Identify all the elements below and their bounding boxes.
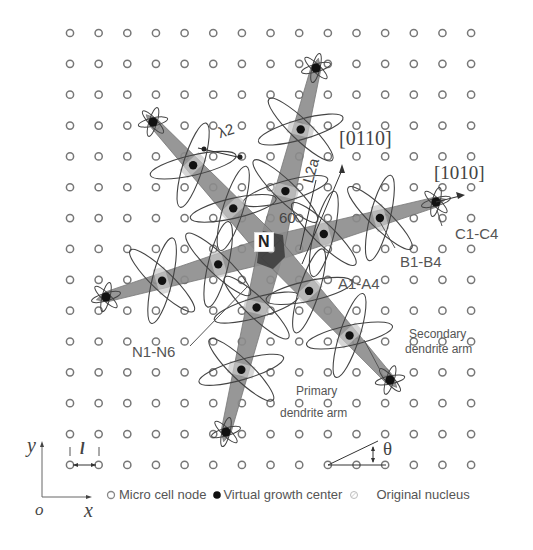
micro-cell-node: [95, 153, 102, 160]
micro-cell-node: [66, 29, 73, 36]
virtual-growth-center: [222, 428, 231, 437]
micro-cell-node: [382, 400, 389, 407]
virtual-growth-center: [386, 376, 395, 385]
primary-arm-label-line1: Primary: [296, 385, 337, 398]
micro-cell-node: [439, 276, 446, 283]
micro-cell-node: [181, 245, 188, 252]
micro-cell-node: [267, 153, 274, 160]
micro-cell-node: [181, 184, 188, 191]
y-axis-label: y: [27, 434, 36, 457]
micro-cell-node: [66, 153, 73, 160]
micro-cell-node: [124, 60, 131, 67]
arrow-head-icon: [40, 441, 44, 447]
micro-cell-node: [382, 29, 389, 36]
micro-cell-node: [181, 215, 188, 222]
micro-cell-node: [238, 430, 245, 437]
micro-cell-node: [210, 153, 217, 160]
micro-cell-node: [152, 461, 159, 468]
micro-cell-node: [181, 461, 188, 468]
micro-cell-node: [382, 60, 389, 67]
micro-cell-node: [95, 184, 102, 191]
micro-cell-node: [353, 60, 360, 67]
micro-cell-node: [124, 153, 131, 160]
micro-cell-node: [66, 184, 73, 191]
lambda2-endpoint-icon: [238, 155, 243, 160]
micro-cell-node: [152, 91, 159, 98]
micro-cell-node: [324, 184, 331, 191]
micro-cell-node: [324, 369, 331, 376]
micro-cell-node: [152, 29, 159, 36]
micro-cell-node: [324, 338, 331, 345]
micro-cell-node: [439, 430, 446, 437]
micro-cell-node: [410, 276, 417, 283]
micro-cell-node: [439, 461, 446, 468]
micro-cell-node: [181, 122, 188, 129]
micro-cell-node: [152, 245, 159, 252]
secondary-arm-label-line1: Secondary: [409, 328, 466, 341]
micro-cell-node: [267, 461, 274, 468]
micro-cell-node: [181, 400, 188, 407]
micro-cell-node: [95, 215, 102, 222]
micro-cell-node: [152, 400, 159, 407]
dendrite-diagram: N λ2 L2a 60 [0110] [1010] C1-C4 B1-B4 A1…: [0, 0, 533, 550]
micro-cell-node: [468, 400, 475, 407]
micro-cell-node: [238, 60, 245, 67]
virtual-growth-center: [320, 230, 328, 238]
spacing-label: l: [80, 440, 84, 458]
micro-cell-node: [410, 369, 417, 376]
micro-cell-node: [124, 276, 131, 283]
micro-cell-node: [324, 430, 331, 437]
micro-cell-node: [124, 430, 131, 437]
micro-cell-node: [468, 307, 475, 314]
micro-cell-node: [353, 307, 360, 314]
micro-cell-node: [152, 60, 159, 67]
micro-cell-node: [324, 153, 331, 160]
arrow-head-icon: [371, 446, 375, 451]
lambda2-endpoint-icon: [202, 147, 207, 152]
micro-cell-node: [181, 430, 188, 437]
micro-cell-node: [296, 338, 303, 345]
micro-cell-node: [439, 29, 446, 36]
micro-cell-node: [353, 430, 360, 437]
micro-cell-node: [439, 153, 446, 160]
micro-cell-node: [410, 91, 417, 98]
virtual-growth-center: [305, 287, 313, 295]
micro-cell-node: [439, 307, 446, 314]
arrow-head-icon: [456, 192, 465, 199]
micro-cell-node: [66, 461, 73, 468]
micro-cell-node: [124, 400, 131, 407]
micro-cell-node: [210, 60, 217, 67]
micro-cell-node: [95, 461, 102, 468]
micro-cell-node: [152, 430, 159, 437]
micro-cell-node: [95, 29, 102, 36]
micro-cell-node: [439, 369, 446, 376]
micro-cell-node: [95, 60, 102, 67]
micro-cell-node: [410, 430, 417, 437]
micro-cell-node: [66, 369, 73, 376]
micro-cell-node: [410, 60, 417, 67]
micro-cell-node: [95, 122, 102, 129]
micro-cell-node: [410, 153, 417, 160]
micro-cell-node: [296, 430, 303, 437]
micro-cell-node: [468, 430, 475, 437]
b1-b4-label: B1-B4: [400, 253, 442, 270]
filled-circle-icon: [212, 490, 222, 500]
legend-label: Virtual growth center: [223, 487, 342, 502]
a1-a4-label: A1-A4: [338, 275, 380, 292]
virtual-growth-center: [158, 276, 166, 284]
micro-cell-node: [124, 215, 131, 222]
virtual-growth-center: [252, 303, 260, 311]
micro-cell-node: [152, 153, 159, 160]
micro-cell-node: [468, 153, 475, 160]
micro-cell-node: [410, 307, 417, 314]
micro-cell-node: [410, 122, 417, 129]
micro-cell-node: [382, 245, 389, 252]
virtual-growth-center: [237, 366, 245, 374]
micro-cell-node: [382, 276, 389, 283]
micro-cell-node: [468, 184, 475, 191]
micro-cell-node: [468, 122, 475, 129]
micro-cell-node: [382, 184, 389, 191]
micro-cell-node: [382, 153, 389, 160]
micro-cell-node: [353, 400, 360, 407]
micro-cell-node: [124, 184, 131, 191]
